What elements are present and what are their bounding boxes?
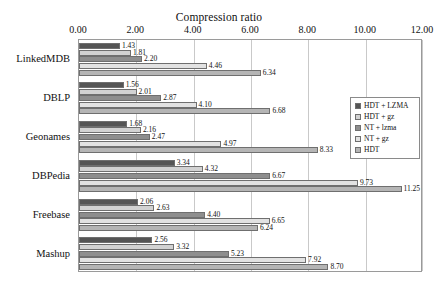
bar-row: 2.56 [79, 237, 421, 243]
legend-item[interactable]: HDT + gz [355, 112, 416, 122]
legend-label: HDT + gz [364, 113, 394, 121]
bar-row: 3.32 [79, 244, 421, 250]
bar-row: 1.81 [79, 50, 421, 56]
category-label: Freebase [33, 208, 70, 219]
legend-label: NT + gz [364, 135, 389, 143]
bar[interactable] [79, 212, 205, 218]
bar[interactable] [79, 89, 137, 95]
bar[interactable] [79, 160, 175, 166]
bar[interactable] [79, 251, 229, 257]
legend-swatch-icon [355, 103, 361, 109]
category-label: DBLP [43, 92, 70, 103]
bar-row: 9.73 [79, 180, 421, 186]
bar[interactable] [79, 173, 270, 179]
bar[interactable] [79, 56, 142, 62]
bar[interactable] [79, 108, 270, 114]
bar[interactable] [79, 127, 141, 133]
legend-label: NT + lzma [364, 124, 396, 132]
bar[interactable] [79, 147, 318, 153]
bar[interactable] [79, 205, 154, 211]
bar[interactable] [79, 141, 221, 147]
bar-value-label: 6.24 [258, 223, 273, 232]
x-tick-label: 2.00 [127, 24, 145, 35]
bar[interactable] [79, 244, 174, 250]
bar-row: 6.65 [79, 218, 421, 224]
category-label: Geonames [26, 131, 70, 142]
bar-row: 5.23 [79, 251, 421, 257]
bar-row: 7.92 [79, 257, 421, 263]
x-axis-tick-labels: 0.002.004.006.008.0010.0012.00 [0, 24, 438, 38]
bar[interactable] [79, 102, 197, 108]
bar[interactable] [79, 70, 261, 76]
bar[interactable] [79, 43, 120, 49]
bar[interactable] [79, 82, 124, 88]
x-tick-label: 8.00 [299, 24, 317, 35]
bar-value-label: 8.70 [328, 262, 343, 271]
bar-row: 11.25 [79, 186, 421, 192]
bar-value-label: 6.34 [261, 68, 276, 77]
bar-row: 2.20 [79, 56, 421, 62]
bar[interactable] [79, 237, 152, 243]
category-label: DBPedia [32, 169, 70, 180]
legend-item[interactable]: HDT [355, 145, 416, 155]
bar[interactable] [79, 225, 258, 231]
bar-row: 3.34 [79, 160, 421, 166]
legend-swatch-icon [355, 147, 361, 153]
bar-value-label: 11.25 [402, 184, 421, 193]
legend-swatch-icon [355, 125, 361, 131]
bar-group: 2.062.634.406.656.24 [79, 195, 421, 234]
legend-swatch-icon [355, 114, 361, 120]
category-label: LinkedMDB [16, 53, 70, 64]
legend-item[interactable]: NT + lzma [355, 123, 416, 133]
x-tick-label: 4.00 [184, 24, 202, 35]
bar-row: 6.34 [79, 70, 421, 76]
legend-swatch-icon [355, 136, 361, 142]
x-tick-label: 10.00 [353, 24, 376, 35]
bar[interactable] [79, 63, 207, 69]
bar-row: 6.24 [79, 225, 421, 231]
x-tick-label: 12.00 [411, 24, 434, 35]
bar-row: 4.46 [79, 63, 421, 69]
category-label: Mashup [36, 247, 70, 258]
x-tick-label: 0.00 [69, 24, 87, 35]
bar[interactable] [79, 264, 328, 270]
legend-item[interactable]: HDT + LZMA [355, 101, 416, 111]
x-tick-label: 6.00 [241, 24, 259, 35]
legend-label: HDT + LZMA [364, 102, 409, 110]
legend-item[interactable]: NT + gz [355, 134, 416, 144]
gridline [422, 40, 423, 271]
bar[interactable] [79, 95, 161, 101]
bar[interactable] [79, 166, 203, 172]
compression-ratio-chart: Compression ratio 0.002.004.006.008.0010… [0, 0, 438, 291]
category-axis-labels: LinkedMDBDBLPGeonamesDBPediaFreebaseMash… [0, 39, 74, 272]
bar-row: 2.63 [79, 205, 421, 211]
bar[interactable] [79, 50, 131, 56]
bar-row: 2.01 [79, 89, 421, 95]
bar-row: 2.06 [79, 199, 421, 205]
bar[interactable] [79, 218, 270, 224]
bar-group: 3.344.326.679.7311.25 [79, 157, 421, 196]
bar-value-label: 8.33 [318, 146, 333, 155]
legend-label: HDT [364, 146, 379, 154]
bar-row: 8.70 [79, 264, 421, 270]
bar-group: 2.563.325.237.928.70 [79, 234, 421, 273]
bar-row: 4.40 [79, 212, 421, 218]
bar[interactable] [79, 180, 358, 186]
bar[interactable] [79, 134, 150, 140]
bar-row: 4.32 [79, 166, 421, 172]
bar[interactable] [79, 121, 127, 127]
chart-legend: HDT + LZMAHDT + gzNT + lzmaNT + gzHDT [350, 97, 420, 159]
bar-value-label: 6.68 [270, 107, 285, 116]
bar[interactable] [79, 186, 402, 192]
chart-title: Compression ratio [0, 11, 438, 23]
bar-row: 1.56 [79, 82, 421, 88]
bar-group: 1.431.812.204.466.34 [79, 40, 421, 79]
bar[interactable] [79, 257, 306, 263]
bar[interactable] [79, 199, 138, 205]
